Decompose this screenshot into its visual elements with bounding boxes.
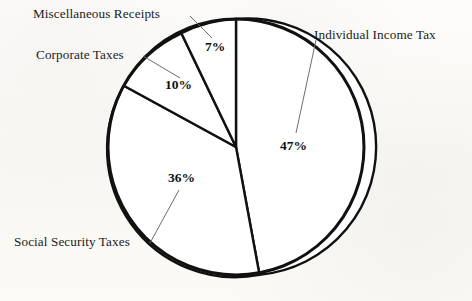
pie-chart-figure: Miscellaneous Receipts Corporate Taxes I… [0, 0, 472, 301]
pie-chart-svg [0, 0, 472, 301]
pie-value-individual-income-tax: 47% [280, 139, 307, 153]
pie-label-miscellaneous-receipts: Miscellaneous Receipts [33, 7, 160, 20]
pie-value-corporate-taxes: 10% [165, 78, 192, 92]
pie-label-social-security-taxes: Social Security Taxes [14, 235, 130, 248]
pie-label-individual-income-tax: Individual Income Tax [314, 28, 436, 41]
pie-value-miscellaneous-receipts: 7% [205, 40, 225, 54]
pie-label-corporate-taxes: Corporate Taxes [36, 48, 124, 61]
pie-value-social-security-taxes: 36% [168, 171, 195, 185]
